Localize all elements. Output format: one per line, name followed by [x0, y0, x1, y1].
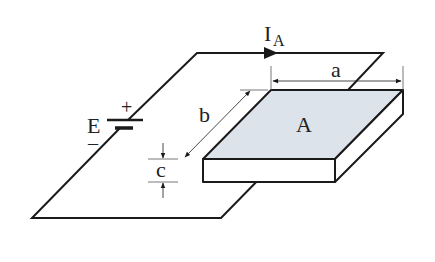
- area-label: A: [296, 112, 312, 137]
- minus-sign: –: [87, 132, 99, 154]
- dim-a-label: a: [331, 57, 341, 82]
- battery-symbol: [107, 120, 143, 128]
- circuit-diagram: I A a b c A E + –: [0, 0, 435, 262]
- current-label: I: [264, 21, 271, 46]
- current-subscript: A: [273, 32, 285, 49]
- dim-b-label: b: [199, 102, 210, 127]
- block-front-face: [203, 159, 335, 182]
- plus-sign: +: [121, 96, 132, 118]
- dim-c-label: c: [156, 157, 166, 182]
